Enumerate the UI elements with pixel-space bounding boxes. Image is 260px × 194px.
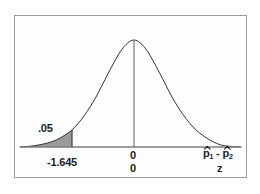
statistics-figure: .05 -1.645 0 0 p1 - p2 z xyxy=(0,0,260,194)
z-axis-label: z xyxy=(217,163,223,174)
normal-curve xyxy=(20,40,241,147)
critical-value-label: -1.645 xyxy=(47,157,77,168)
phat-1-subscript: 1 xyxy=(210,153,214,160)
alpha-area-label: .05 xyxy=(38,123,53,134)
phat-2-subscript: 2 xyxy=(229,153,233,160)
phat-2-symbol: p xyxy=(222,147,229,159)
phat-difference-axis-label: p1 - p2 xyxy=(203,148,233,159)
center-tick-label-phat: 0 xyxy=(130,150,136,161)
center-tick-label-z: 0 xyxy=(130,163,136,174)
phat-1-symbol: p xyxy=(203,147,210,159)
